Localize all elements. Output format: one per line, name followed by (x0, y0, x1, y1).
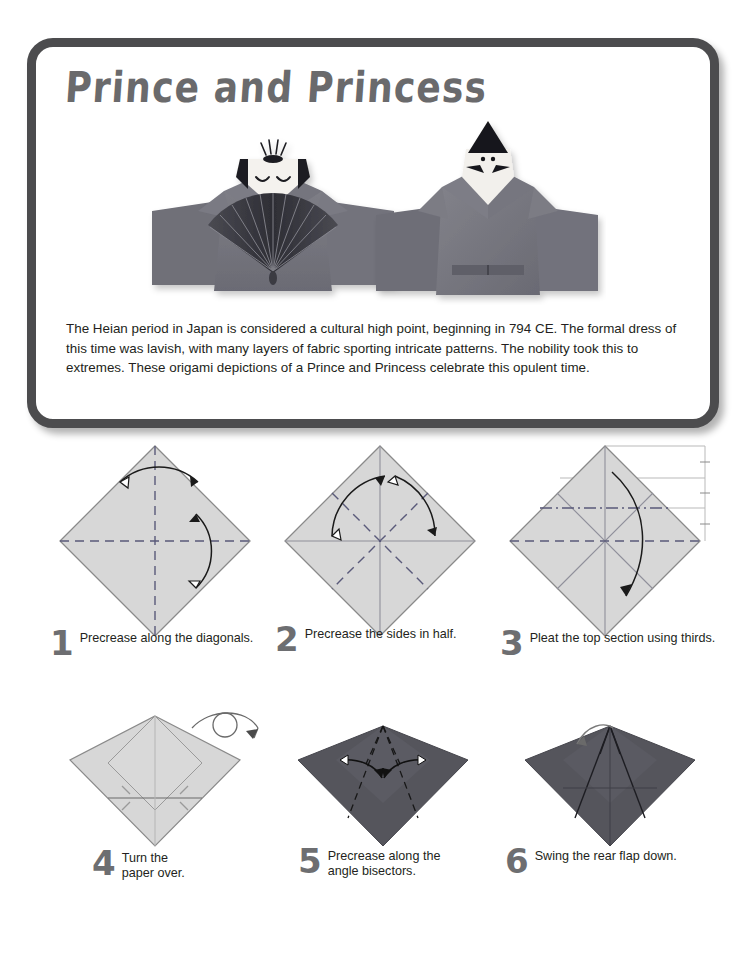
origami-instruction-page: Prince and Princess (0, 0, 747, 968)
step-6-diagram (505, 698, 735, 868)
step-2: 2 Precrease the sides in half. (275, 436, 490, 666)
step-6: 6 Swing the rear flap down. (505, 698, 735, 898)
step-3-number: 3 (500, 628, 523, 658)
step-5-number: 5 (298, 846, 321, 876)
princess-figure (152, 140, 394, 291)
step-1-diagram (50, 436, 265, 636)
card-description: The Heian period in Japan is considered … (66, 319, 688, 378)
step-4-caption: Turn the paper over. (122, 848, 185, 882)
step-1-number: 1 (50, 628, 73, 658)
step-4-number: 4 (92, 848, 115, 878)
step-2-diagram (275, 436, 490, 636)
step-3-diagram (500, 436, 740, 636)
step-1: 1 Precrease along the diagonals. (50, 436, 265, 666)
page-title: Prince and Princess (64, 63, 490, 111)
origami-photo (136, 115, 606, 305)
step-3: 3 Pleat the top section using thirds. (500, 436, 740, 666)
prince-figure (376, 121, 598, 295)
step-3-caption: Pleat the top section using thirds. (530, 628, 716, 646)
step-5: 5 Precrease along the angle bisectors. (278, 698, 508, 898)
step-5-caption: Precrease along the angle bisectors. (328, 846, 441, 880)
step-2-number: 2 (275, 624, 298, 654)
step-6-caption: Swing the rear flap down. (535, 846, 677, 864)
step-1-caption: Precrease along the diagonals. (80, 628, 254, 646)
header-card: Prince and Princess (27, 38, 719, 428)
step-4: 4 Turn the paper over. (50, 698, 280, 898)
turn-over-icon (192, 713, 258, 739)
step-4-diagram (50, 698, 280, 868)
step-6-number: 6 (505, 846, 528, 876)
step-2-caption: Precrease the sides in half. (305, 624, 457, 642)
